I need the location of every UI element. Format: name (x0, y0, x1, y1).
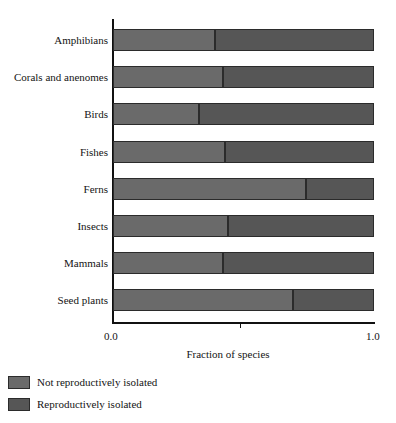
category-label: Corals and anenomes (0, 66, 108, 88)
bar-segment-not-isolated[interactable] (113, 215, 228, 237)
bar-segment-isolated[interactable] (215, 29, 374, 51)
legend-item[interactable]: Reproductively isolated (8, 394, 157, 414)
category-label: Mammals (0, 252, 108, 274)
bar-segment-not-isolated[interactable] (113, 103, 199, 125)
category-label: Birds (0, 103, 108, 125)
category-label: Fishes (0, 141, 108, 163)
bar-segment-isolated[interactable] (223, 66, 374, 88)
bar-segment-isolated[interactable] (306, 178, 374, 200)
bar-row[interactable] (113, 103, 374, 125)
category-label: Insects (0, 215, 108, 237)
legend-item[interactable]: Not reproductively isolated (8, 372, 157, 392)
category-label: Amphibians (0, 29, 108, 51)
legend-swatch (8, 398, 30, 411)
bar-row[interactable] (113, 29, 374, 51)
bar-segment-isolated[interactable] (293, 289, 374, 311)
bar-row[interactable] (113, 178, 374, 200)
bar-segment-isolated[interactable] (199, 103, 374, 125)
bar-segment-isolated[interactable] (228, 215, 374, 237)
x-axis-title: Fraction of species (0, 348, 396, 360)
category-label: Ferns (0, 178, 108, 200)
bar-row[interactable] (113, 215, 374, 237)
bar-segment-not-isolated[interactable] (113, 66, 223, 88)
bar-segment-not-isolated[interactable] (113, 289, 293, 311)
bar-segment-not-isolated[interactable] (113, 252, 223, 274)
legend-label: Not reproductively isolated (37, 376, 157, 388)
bar-segment-isolated[interactable] (225, 141, 374, 163)
stacked-bar-chart: AmphibiansCorals and anenomesBirdsFishes… (0, 0, 396, 423)
bar-segment-isolated[interactable] (223, 252, 374, 274)
x-axis-title-text: Fraction of species (186, 348, 269, 360)
legend-swatch (8, 376, 30, 389)
legend-label: Reproductively isolated (37, 398, 142, 410)
category-label: Seed plants (0, 289, 108, 311)
bar-segment-not-isolated[interactable] (113, 141, 225, 163)
plot-area (113, 19, 374, 323)
bar-row[interactable] (113, 66, 374, 88)
x-tick-label-min: 0.0 (104, 330, 118, 342)
bar-row[interactable] (113, 289, 374, 311)
x-tick-label-max: 1.0 (366, 330, 380, 342)
x-axis-midpoint-tick (240, 323, 241, 328)
bar-segment-not-isolated[interactable] (113, 178, 306, 200)
bar-segment-not-isolated[interactable] (113, 29, 215, 51)
bar-row[interactable] (113, 141, 374, 163)
bar-row[interactable] (113, 252, 374, 274)
chart-legend: Not reproductively isolatedReproductivel… (8, 372, 157, 416)
